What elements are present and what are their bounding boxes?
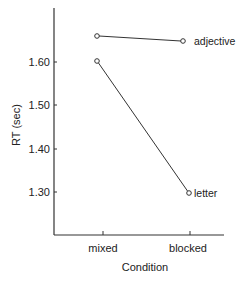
x-tick-label-mixed: mixed [88,242,117,254]
data-point [181,39,186,44]
y-tick-label: 1.50 [29,99,50,111]
series-letter: letter [95,59,218,199]
series-adjective: adjective [95,34,236,47]
y-axis-title: RT (sec) [10,104,22,146]
x-tick-label-blocked: blocked [169,242,207,254]
data-point [187,191,192,196]
data-point [95,59,100,64]
y-tick-label: 1.40 [29,143,50,155]
series-label-letter: letter [194,187,218,199]
chart: 1.60 1.50 1.40 1.30 mixed blocked Condit… [0,0,238,283]
data-point [95,34,100,39]
y-tick-label: 1.60 [29,56,50,68]
x-axis-title: Condition [122,261,168,273]
y-tick-label: 1.30 [29,186,50,198]
y-ticks: 1.60 1.50 1.40 1.30 [29,56,57,198]
series-label-adjective: adjective [194,35,236,47]
